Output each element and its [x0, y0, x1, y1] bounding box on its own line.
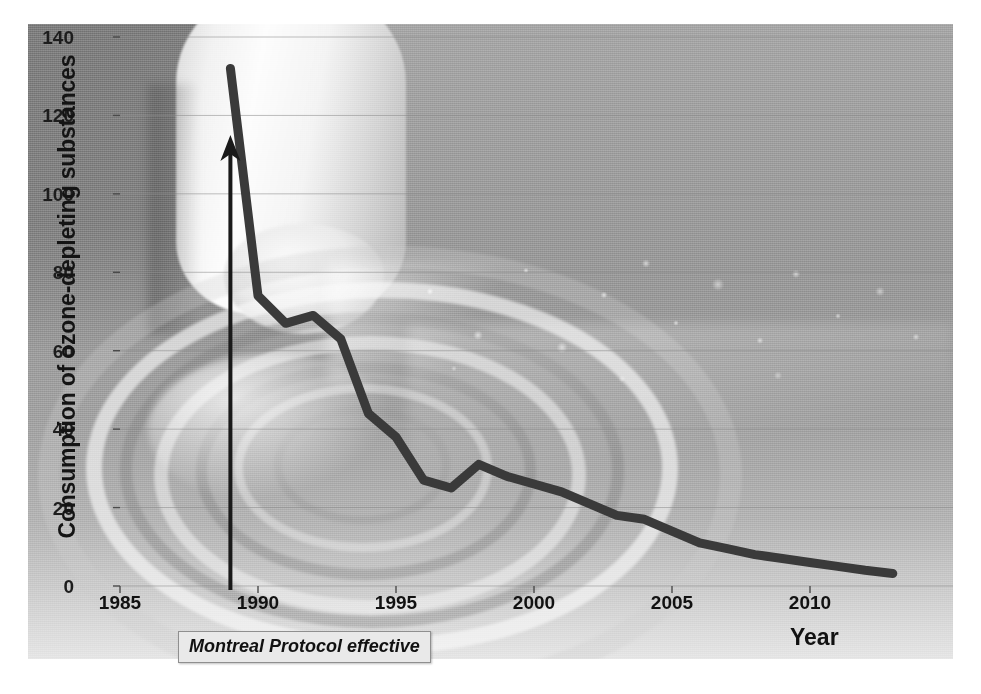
annotation-montreal-protocol-effective: Montreal Protocol effective: [178, 631, 431, 663]
y-tick-label-140: 140: [14, 27, 74, 49]
y-tick-marks: [113, 37, 120, 586]
chart-canvas: [0, 0, 981, 694]
x-tick-label-2000: 2000: [489, 592, 579, 614]
x-tick-label-2005: 2005: [627, 592, 717, 614]
x-tick-label-1990: 1990: [213, 592, 303, 614]
x-tick-label-1985: 1985: [75, 592, 165, 614]
chart-figure: 140 120 100 80 60 40 20 0 1985 1990 1995…: [0, 0, 981, 694]
montreal-protocol-arrow: [220, 135, 240, 590]
y-tick-label-0: 0: [14, 576, 74, 598]
x-tick-label-2010: 2010: [765, 592, 855, 614]
x-tick-label-1995: 1995: [351, 592, 441, 614]
data-line-ods-consumption: [230, 68, 892, 573]
x-axis-title: Year: [790, 624, 839, 651]
y-axis-title: Consumption of ozone-depleting substance…: [54, 69, 81, 539]
gridlines: [120, 37, 953, 586]
